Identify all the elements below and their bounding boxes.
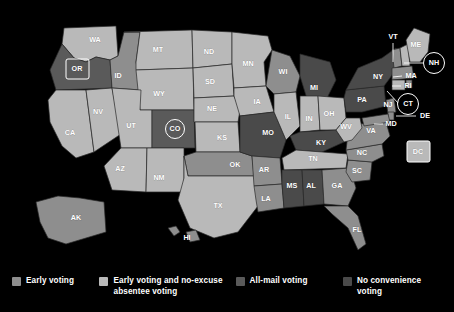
legend-swatch-icon-no-convenience-voting bbox=[343, 277, 352, 286]
state-label-NV: NV bbox=[93, 107, 103, 116]
legend-swatch-icon-all-mail-voting bbox=[236, 277, 245, 286]
state-shapes bbox=[36, 26, 430, 250]
state-label-MI: MI bbox=[310, 83, 318, 92]
legend-item-early-voting-absentee[interactable]: Early voting and no-excuse absentee voti… bbox=[99, 276, 225, 297]
map-svg: WA OR ID MT WY NV UT CA CO AZ NM ND SD N… bbox=[0, 0, 454, 268]
legend-label-all-mail-voting: All-mail voting bbox=[250, 276, 308, 287]
callout-label-MD: MD bbox=[385, 119, 396, 128]
voting-map-screenshot: WA OR ID MT WY NV UT CA CO AZ NM ND SD N… bbox=[0, 0, 454, 312]
callout-label-NH: NH bbox=[429, 58, 439, 67]
legend-label-early-voting-absentee: Early voting and no-excuse absentee voti… bbox=[113, 276, 225, 297]
state-label-TN: TN bbox=[308, 154, 318, 163]
legend-row: Early voting Early voting and no-excuse … bbox=[12, 276, 442, 297]
callout-label-DE: DE bbox=[420, 111, 430, 120]
state-label-UT: UT bbox=[126, 121, 136, 130]
state-label-OK: OK bbox=[230, 160, 242, 169]
state-label-MT: MT bbox=[153, 45, 164, 54]
state-shape-OK[interactable] bbox=[184, 152, 254, 176]
callout-label-NJ: NJ bbox=[383, 100, 392, 109]
callout-label-VT: VT bbox=[388, 32, 398, 41]
map-legend: Early voting Early voting and no-excuse … bbox=[0, 268, 454, 312]
state-label-NE: NE bbox=[207, 104, 217, 113]
state-label-SC: SC bbox=[352, 166, 362, 175]
state-shape-CT[interactable] bbox=[392, 80, 405, 90]
state-label-IN: IN bbox=[305, 114, 312, 123]
legend-label-no-convenience-voting: No convenience voting bbox=[357, 276, 442, 297]
state-label-IA: IA bbox=[253, 97, 260, 106]
state-label-VA: VA bbox=[366, 126, 375, 135]
state-label-FL: FL bbox=[353, 225, 362, 234]
state-label-OH: OH bbox=[324, 109, 335, 118]
us-choropleth-map: WA OR ID MT WY NV UT CA CO AZ NM ND SD N… bbox=[0, 0, 454, 268]
state-label-MS: MS bbox=[287, 181, 298, 190]
state-label-PA: PA bbox=[357, 95, 366, 104]
state-label-KS: KS bbox=[217, 133, 227, 142]
state-shape-WY[interactable] bbox=[136, 68, 194, 110]
legend-swatch-icon-early-voting-absentee bbox=[99, 277, 108, 286]
state-label-ME: ME bbox=[411, 40, 422, 49]
legend-item-no-convenience-voting[interactable]: No convenience voting bbox=[343, 276, 442, 297]
state-shape-AZ[interactable] bbox=[104, 148, 147, 192]
state-label-LA: LA bbox=[261, 194, 271, 203]
state-label-AR: AR bbox=[259, 165, 270, 174]
callout-label-MA: MA bbox=[405, 71, 416, 80]
state-label-TX: TX bbox=[213, 201, 222, 210]
callout-label-DC: DC bbox=[413, 147, 423, 156]
state-label-CA: CA bbox=[65, 128, 75, 137]
callout-label-RI: RI bbox=[404, 81, 411, 90]
state-shape-NE[interactable] bbox=[194, 96, 240, 122]
state-label-NM: NM bbox=[153, 173, 164, 182]
state-label-ID: ID bbox=[114, 71, 121, 80]
state-label-MN: MN bbox=[242, 59, 253, 68]
state-label-NC: NC bbox=[357, 148, 367, 157]
callout-label-CT: CT bbox=[403, 99, 413, 108]
state-label-AK: AK bbox=[71, 213, 82, 222]
state-label-OR: OR bbox=[72, 64, 84, 73]
state-label-AZ: AZ bbox=[115, 164, 125, 173]
state-label-WV: WV bbox=[340, 122, 352, 131]
state-label-HI: HI bbox=[183, 233, 190, 242]
state-label-SD: SD bbox=[205, 77, 215, 86]
state-label-IL: IL bbox=[285, 112, 292, 121]
state-shape-NM[interactable] bbox=[146, 148, 184, 192]
state-label-CO: CO bbox=[170, 124, 181, 133]
legend-item-all-mail-voting[interactable]: All-mail voting bbox=[236, 276, 333, 287]
legend-swatch-icon-early-voting bbox=[12, 277, 21, 286]
state-shape-MI[interactable] bbox=[300, 54, 336, 102]
legend-item-early-voting[interactable]: Early voting bbox=[12, 276, 89, 287]
state-label-AL: AL bbox=[306, 181, 316, 190]
state-label-WA: WA bbox=[89, 35, 101, 44]
state-label-KY: KY bbox=[316, 138, 326, 147]
state-label-GA: GA bbox=[332, 181, 343, 190]
state-label-NY: NY bbox=[373, 72, 383, 81]
state-label-WY: WY bbox=[153, 89, 165, 98]
state-label-WI: WI bbox=[279, 67, 288, 76]
state-label-ND: ND bbox=[204, 47, 214, 56]
legend-label-early-voting: Early voting bbox=[26, 276, 74, 287]
state-label-MO: MO bbox=[262, 128, 274, 137]
